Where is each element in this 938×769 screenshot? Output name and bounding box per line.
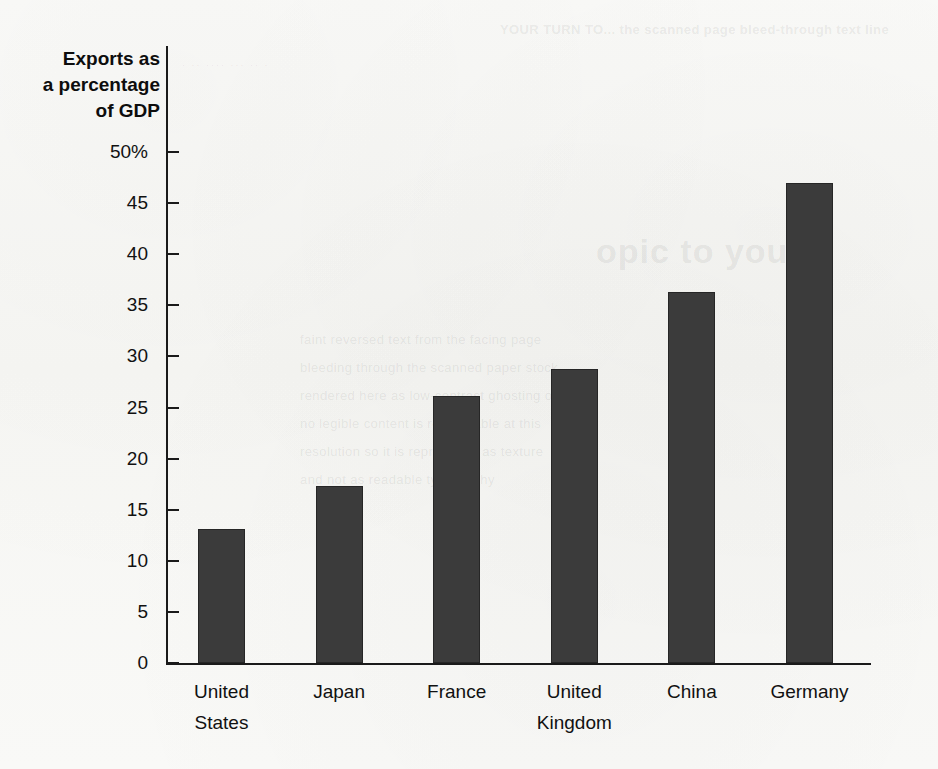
y-axis-tick-label: 45 — [38, 193, 148, 212]
y-axis-tick-label: 10 — [38, 551, 148, 570]
bar — [316, 486, 363, 663]
bar — [786, 183, 833, 663]
y-axis-title-line: Exports as — [10, 46, 160, 72]
y-axis-tick — [168, 611, 179, 613]
y-axis-title-line: a percentage — [10, 72, 160, 98]
y-axis-tick-label: 15 — [38, 500, 148, 519]
y-axis-tick-label: 25 — [38, 398, 148, 417]
chart-page: · ·· ···· ··· ·· · YOUR TURN TO... the s… — [0, 0, 938, 769]
x-axis-label: Germany — [735, 676, 885, 707]
bar — [668, 292, 715, 663]
y-axis-tick — [168, 662, 179, 664]
bar-chart: Exports as a percentage of GDP 50%454035… — [0, 0, 938, 769]
y-axis-tick — [168, 458, 179, 460]
y-axis-tick-label: 35 — [38, 295, 148, 314]
x-axis-label-line: States — [147, 707, 297, 738]
y-axis-tick — [168, 560, 179, 562]
y-axis-tick — [168, 304, 179, 306]
x-axis-line — [166, 663, 871, 665]
y-axis-tick — [168, 253, 179, 255]
y-axis-tick-label: 0 — [38, 653, 148, 672]
y-axis-title-line: of GDP — [10, 98, 160, 124]
y-axis-tick-label: 5 — [38, 602, 148, 621]
bar — [551, 369, 598, 663]
y-axis-tick-label: 40 — [38, 244, 148, 263]
y-axis-title: Exports as a percentage of GDP — [10, 46, 160, 124]
y-axis-tick-label: 50% — [38, 142, 148, 161]
y-axis-tick — [168, 407, 179, 409]
y-axis-tick-label: 30 — [38, 346, 148, 365]
x-axis-label-line: Germany — [735, 676, 885, 707]
y-axis-tick — [168, 151, 179, 153]
y-axis-tick — [168, 202, 179, 204]
y-axis-tick-label: 20 — [38, 449, 148, 468]
y-axis-tick — [168, 509, 179, 511]
y-axis-tick — [168, 355, 179, 357]
x-axis-label-line: Kingdom — [499, 707, 649, 738]
bar — [433, 396, 480, 663]
bar — [198, 529, 245, 663]
